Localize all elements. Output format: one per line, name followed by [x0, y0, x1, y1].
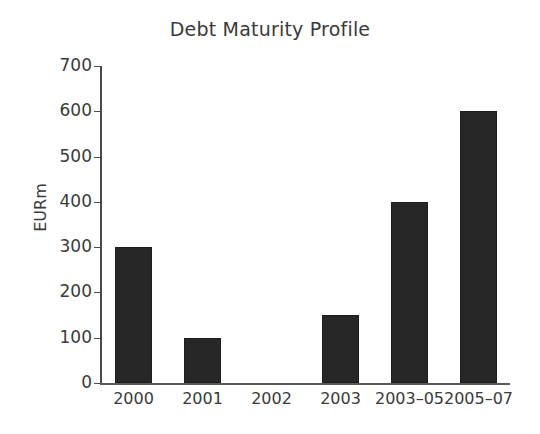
- x-axis-tick-labels: 20002001200220032003–052005–07: [100, 389, 520, 413]
- y-tick-mark: [94, 202, 100, 203]
- y-tick-label: 0: [32, 374, 92, 391]
- bar: [322, 315, 359, 383]
- x-tick-label: 2002: [251, 389, 292, 408]
- y-tick-mark: [94, 383, 100, 384]
- x-axis-spine: [100, 383, 510, 385]
- y-tick-mark: [94, 338, 100, 339]
- y-tick-label: 600: [32, 102, 92, 119]
- x-tick-label: 2001: [182, 389, 223, 408]
- chart-figure: Debt Maturity Profile EURm 0100200300400…: [0, 0, 540, 434]
- y-tick-mark: [94, 292, 100, 293]
- y-axis-tick-labels: 0100200300400500600700: [18, 66, 92, 385]
- y-tick-label: 500: [32, 148, 92, 165]
- x-tick-label: 2000: [113, 389, 154, 408]
- y-tick-mark: [94, 111, 100, 112]
- y-tick-mark: [94, 157, 100, 158]
- y-tick-label: 400: [32, 193, 92, 210]
- y-tick-label: 300: [32, 238, 92, 255]
- x-tick-label: 2003–05: [375, 389, 444, 408]
- x-tick-label: 2003: [320, 389, 361, 408]
- y-tick-mark: [94, 66, 100, 67]
- bar: [391, 202, 428, 383]
- bar: [115, 247, 152, 383]
- chart-title: Debt Maturity Profile: [0, 18, 540, 40]
- x-tick-label: 2005–07: [444, 389, 513, 408]
- bar: [460, 111, 497, 383]
- y-tick-label: 700: [32, 57, 92, 74]
- y-axis-spine: [100, 66, 102, 385]
- y-tick-label: 100: [32, 329, 92, 346]
- plot-area: [100, 66, 510, 385]
- bar: [184, 338, 221, 383]
- y-tick-label: 200: [32, 283, 92, 300]
- y-tick-mark: [94, 247, 100, 248]
